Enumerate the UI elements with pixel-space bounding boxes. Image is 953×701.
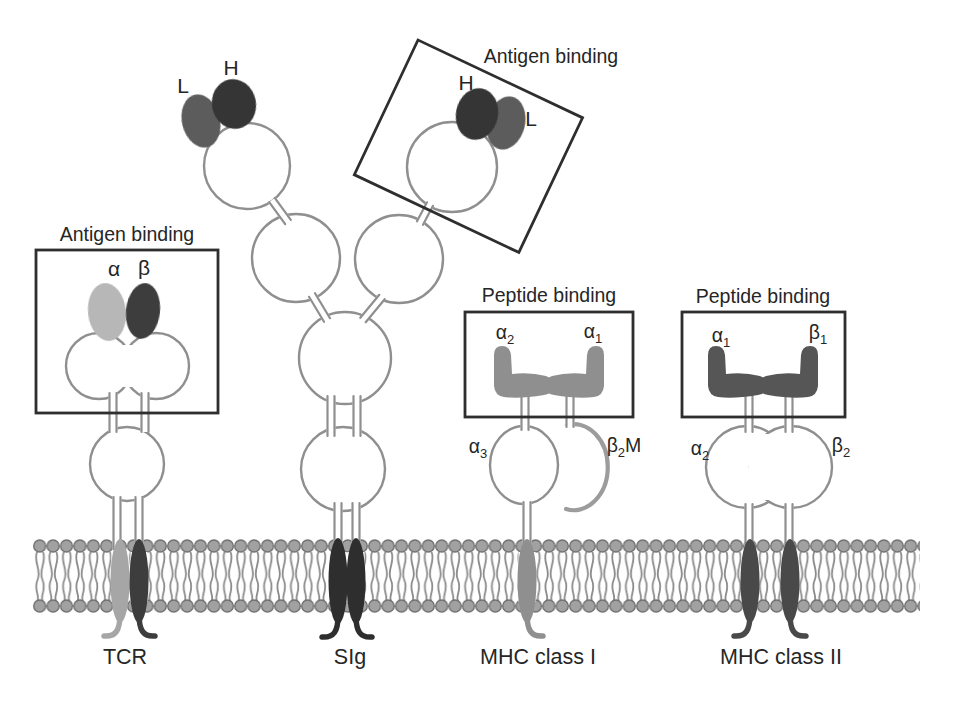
immune-receptor-figure: Antigen binding α β TCR: [0, 0, 953, 701]
mhc1-binding-site-title: Peptide binding: [482, 284, 616, 306]
mhc2-peptide-binding-box: [682, 312, 845, 417]
mhc2-beta2-label: β2: [832, 434, 850, 460]
mhc1-cytoplasmic-tail: [527, 614, 543, 636]
tcr-cytoplasmic-tail-right: [139, 614, 155, 636]
mhc2-alpha2-label: α2: [691, 437, 710, 463]
sig-cytoplasmic-tail-left: [322, 616, 338, 637]
tcr-antigen-binding-box: [36, 250, 218, 413]
mhc1-name-label: MHC class I: [480, 645, 596, 669]
mhc1-alpha1-helix: [545, 346, 604, 398]
sig-tm-left: [329, 538, 348, 624]
sig-name-label: SIg: [334, 645, 366, 669]
mhc2-tm-beta: [781, 539, 800, 623]
mhc1-alpha2-label: α2: [496, 321, 515, 347]
mhc2-cytoplasmic-tail-left: [734, 614, 750, 636]
tcr-extracellular-domains: [66, 333, 189, 501]
tcr-tm-beta: [130, 539, 149, 623]
mhc2-alpha1-helix: [708, 346, 767, 398]
sig-binding-site-title: Antigen binding: [484, 45, 618, 67]
mhc1-alpha3-domain: [490, 426, 558, 504]
sig-tm-right: [347, 538, 366, 624]
mhc2-beta1-helix: [759, 346, 818, 398]
mhc2-tm-alpha: [741, 539, 760, 623]
tcr-name-label: TCR: [103, 645, 147, 669]
mhc2-membrane-proximal-domains: [706, 426, 832, 508]
sig-right-heavy-label: H: [458, 71, 473, 94]
mhc2-peptide-binding-groove: [708, 346, 818, 398]
tcr-beta-label: β: [138, 256, 150, 279]
mhc1-alpha1-label: α1: [584, 320, 603, 346]
sig-cytoplasmic-tail-right: [356, 616, 372, 637]
sig-left-light-label: L: [177, 74, 189, 97]
tcr-binding-site-title: Antigen binding: [60, 223, 194, 245]
receptor-diagram: Antigen binding α β TCR: [0, 0, 953, 701]
mhc1-peptide-binding-box: [465, 312, 633, 417]
mhc1-peptide-binding-groove: [494, 346, 604, 398]
sig-right-light-label: L: [525, 107, 537, 130]
mhc1-beta2m-label: β2M: [607, 434, 642, 460]
mhc1-beta2-microglobulin: [566, 424, 608, 510]
mhc2-cytoplasmic-tail-right: [790, 614, 806, 636]
tcr-beta-chain-domain: [123, 281, 163, 340]
mhc1-alpha3-label: α3: [469, 435, 488, 461]
mhc1-alpha2-helix: [494, 346, 553, 398]
mhc2-beta1-label: β1: [809, 321, 827, 347]
mhc1-tm: [518, 539, 537, 623]
tcr-cytoplasmic-tail-left: [104, 614, 120, 636]
sig-left-heavy-label: H: [223, 56, 238, 79]
mhc2-name-label: MHC class II: [720, 645, 842, 669]
tcr-alpha-label: α: [108, 257, 120, 280]
tcr-tm-alpha: [111, 539, 130, 623]
sig-ig-domains: [204, 122, 497, 511]
mhc2-binding-site-title: Peptide binding: [696, 285, 830, 307]
